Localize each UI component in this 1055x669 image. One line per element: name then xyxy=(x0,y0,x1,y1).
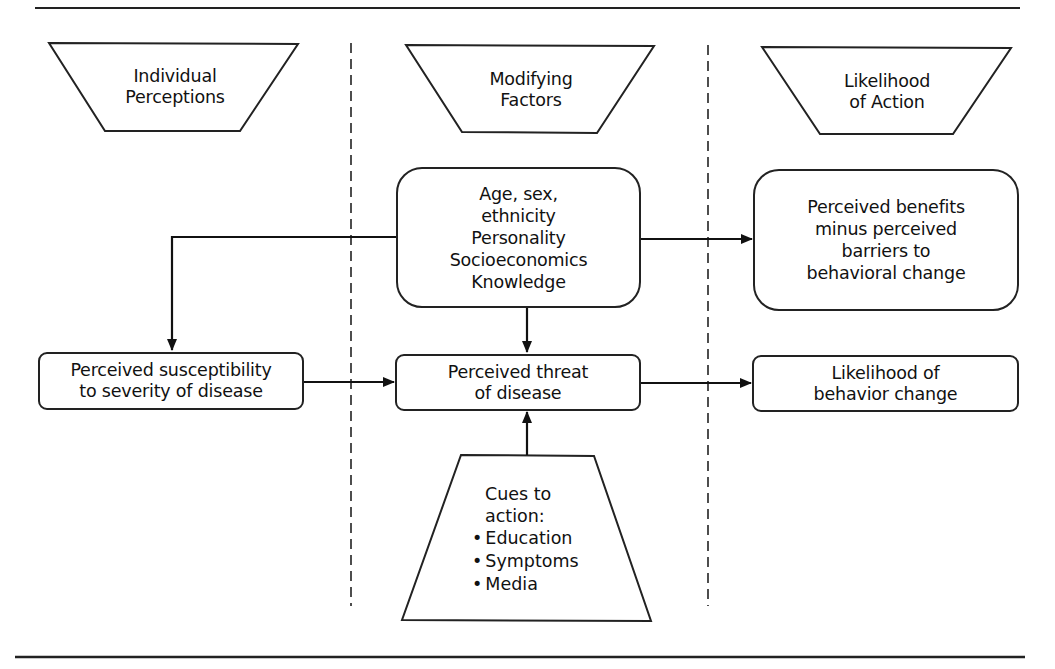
edge-demographics-to-susceptibility xyxy=(172,237,396,350)
cues-title: Cues to action: xyxy=(472,483,612,527)
node-perceived-benefits: Perceived benefits minus perceived barri… xyxy=(753,169,1019,311)
node-demographics-text: Age, sex, ethnicity Personality Socioeco… xyxy=(450,183,588,293)
node-demographics: Age, sex, ethnicity Personality Socioeco… xyxy=(396,167,641,308)
header-individual-perceptions: Individual Perceptions xyxy=(100,66,250,108)
node-perceived-susceptibility: Perceived susceptibility to severity of … xyxy=(38,352,304,410)
node-cues-to-action: Cues to action: Education Symptoms Media xyxy=(472,483,612,596)
cues-item-media: Media xyxy=(472,573,612,596)
cues-item-symptoms: Symptoms xyxy=(472,550,612,573)
node-likelihood-behavior-change-text: Likelihood of behavior change xyxy=(814,363,958,405)
node-perceived-threat-text: Perceived threat of disease xyxy=(448,362,588,404)
node-perceived-threat: Perceived threat of disease xyxy=(395,354,641,411)
node-perceived-benefits-text: Perceived benefits minus perceived barri… xyxy=(807,196,966,284)
node-likelihood-behavior-change: Likelihood of behavior change xyxy=(752,355,1019,412)
node-perceived-susceptibility-text: Perceived susceptibility to severity of … xyxy=(70,360,271,402)
header-modifying-factors: Modifying Factors xyxy=(456,69,606,111)
header-likelihood-of-action: Likelihood of Action xyxy=(812,71,962,113)
cues-item-education: Education xyxy=(472,527,612,550)
